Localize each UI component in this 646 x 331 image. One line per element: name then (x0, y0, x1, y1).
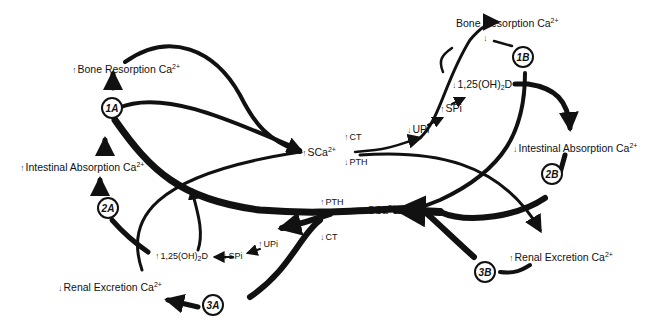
increase-arrow-icon: ↑ (441, 105, 444, 114)
label-text: CT (326, 232, 338, 242)
label-text: SPi (229, 251, 243, 261)
label-upper-calcitonin: ↑CT (344, 133, 362, 142)
label-lower-pth: ↑PTH (320, 198, 344, 207)
label-left-intestinal-absorption: ↑Intestinal Absorption Ca2+ (20, 162, 144, 173)
decrease-arrow-icon: ↓ (363, 207, 366, 216)
label-right-renal-excretion: ↑Renal Excretion Ca2+ (509, 252, 613, 263)
label-text: 1,25(OH) (458, 78, 501, 90)
decrease-arrow-icon: ↓ (514, 145, 517, 154)
label-text: UPi (413, 123, 430, 135)
label-text: SPi (446, 102, 462, 114)
label-upper-serum-calcium: ↑SCa2+ (302, 147, 336, 158)
label-text: SCa (308, 146, 328, 158)
increase-arrow-icon: ↑ (510, 254, 513, 263)
superscript: 2+ (328, 146, 336, 153)
increase-arrow-icon: ↑ (345, 133, 348, 142)
label-upper-pth: ↓PTH (344, 158, 368, 167)
superscript: 2+ (136, 161, 144, 168)
label-left-renal-excretion: ↓Renal Excretion Ca2+ (58, 282, 162, 293)
superscript: 2+ (551, 17, 559, 24)
label-text: PTH (350, 157, 368, 167)
right-bone-resorption-decrease: ↓ (483, 34, 489, 43)
label-text: Bone Resorption Ca (78, 63, 173, 75)
node-3a: 3A (202, 294, 224, 316)
label-left-bone-resorption: ↑Bone Resorption Ca2+ (72, 64, 180, 75)
label-text: CT (350, 132, 362, 142)
decrease-arrow-icon: ↓ (484, 34, 487, 43)
increase-arrow-icon: ↑ (303, 149, 306, 158)
label-text: PTH (326, 197, 344, 207)
superscript: 2+ (629, 142, 637, 149)
increase-arrow-icon: ↑ (321, 198, 324, 207)
label-upper-vitamin-d: ↓1,25(OH)2D (452, 79, 512, 90)
label-text: 1,25(OH) (161, 251, 198, 261)
increase-arrow-icon: ↑ (21, 164, 24, 173)
label-text: Renal Excretion Ca (64, 281, 154, 293)
label-text: UPi (264, 239, 279, 249)
superscript: 2+ (154, 281, 162, 288)
label-text: SCa (368, 204, 388, 216)
label-lower-urinary-phosphate: ↑UPi (258, 240, 278, 249)
increase-arrow-icon: ↑ (259, 240, 262, 249)
superscript: 2+ (605, 251, 613, 258)
node-2b: 2B (541, 163, 563, 185)
superscript: 2+ (172, 63, 180, 70)
label-upper-serum-phosphate: ↑SPi (440, 103, 462, 114)
increase-arrow-icon: ↑ (73, 66, 76, 75)
label-right-intestinal-absorption: ↓Intestinal Absorption Ca2+ (513, 143, 637, 154)
label-text: Renal Excretion Ca (515, 251, 605, 263)
decrease-arrow-icon: ↓ (59, 284, 62, 293)
node-2a: 2A (97, 197, 119, 219)
label-lower-calcitonin: ↓CT (320, 233, 338, 242)
label-lower-serum-calcium: ↓SCa2+ (362, 205, 396, 216)
label-text: Intestinal Absorption Ca (519, 142, 630, 154)
decrease-arrow-icon: ↓ (453, 81, 456, 90)
node-1a: 1A (101, 97, 123, 119)
node-1b: 1B (512, 46, 534, 68)
label-lower-vitamin-d: ↑1,25(OH)2D (155, 252, 208, 261)
increase-arrow-icon: ↑ (156, 252, 159, 261)
node-3b: 3B (474, 261, 496, 283)
label-text: D (201, 251, 208, 261)
label-text: Bone Resorption Ca (456, 17, 551, 29)
label-right-bone-resorption: Bone Resorption Ca2+ (456, 18, 559, 29)
label-lower-serum-phosphate: ↓SPi (223, 252, 243, 261)
decrease-arrow-icon: ↓ (345, 158, 348, 167)
decrease-arrow-icon: ↓ (408, 126, 411, 135)
label-text: Intestinal Absorption Ca (26, 161, 137, 173)
decrease-arrow-icon: ↓ (321, 233, 324, 242)
label-upper-urinary-phosphate: ↓UPi (407, 124, 429, 135)
label-text: D (505, 78, 513, 90)
decrease-arrow-icon: ↓ (224, 252, 227, 261)
superscript: 2+ (388, 204, 396, 211)
